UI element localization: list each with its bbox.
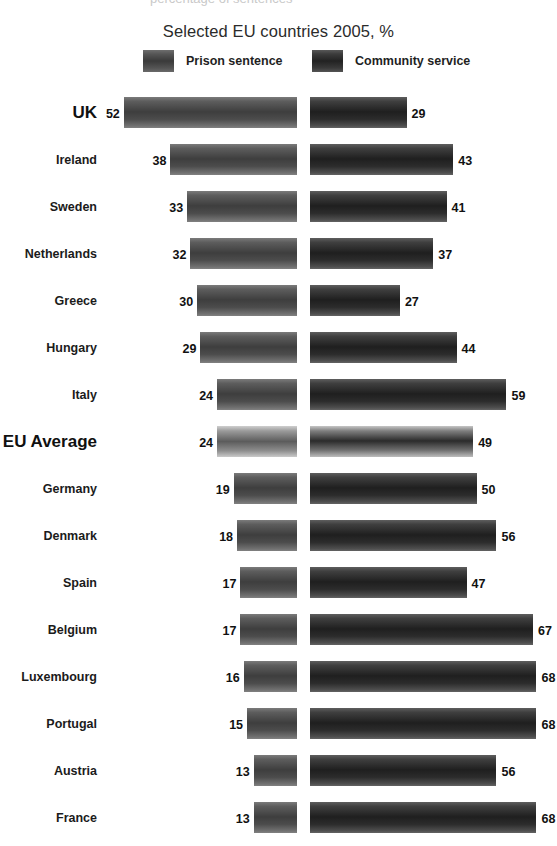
- bar-value-prison-sentence: 17: [194, 625, 236, 638]
- chart-row: EU Average2449: [0, 426, 557, 473]
- bar-community-service: [310, 144, 453, 175]
- chart-row: Sweden3341: [0, 191, 557, 238]
- bar-value-prison-sentence: 19: [188, 484, 230, 497]
- chart-row: Belgium1767: [0, 614, 557, 661]
- row-category-label: Sweden: [0, 200, 97, 214]
- bar-value-prison-sentence: 15: [201, 719, 243, 732]
- row-category-label: Luxembourg: [0, 670, 97, 684]
- row-category-label: Spain: [0, 576, 97, 590]
- bar-prison-sentence: [197, 285, 297, 316]
- bar-value-community-service: 50: [482, 484, 496, 497]
- bar-value-community-service: 29: [412, 108, 426, 121]
- chart-row: Portugal1568: [0, 708, 557, 755]
- chart-row: Greece3027: [0, 285, 557, 332]
- chart-plot-area: UK5229Ireland3843Sweden3341Netherlands32…: [0, 0, 557, 846]
- bar-value-prison-sentence: 38: [124, 155, 166, 168]
- bar-prison-sentence: [247, 708, 297, 739]
- row-category-label: Hungary: [0, 341, 97, 355]
- bar-community-service: [310, 614, 533, 645]
- row-category-label: Netherlands: [0, 247, 97, 261]
- row-category-label: Belgium: [0, 623, 97, 637]
- bar-value-prison-sentence: 24: [171, 437, 213, 450]
- bar-value-community-service: 68: [541, 672, 555, 685]
- chart-row: Netherlands3237: [0, 238, 557, 285]
- chart-row: France1368: [0, 802, 557, 846]
- bar-value-prison-sentence: 17: [194, 578, 236, 591]
- bar-prison-sentence: [190, 238, 297, 269]
- chart-row: Germany1950: [0, 473, 557, 520]
- bar-value-community-service: 27: [405, 296, 419, 309]
- bar-value-community-service: 68: [541, 719, 555, 732]
- bar-prison-sentence: [234, 473, 297, 504]
- bar-value-prison-sentence: 13: [208, 766, 250, 779]
- bar-value-community-service: 37: [438, 249, 452, 262]
- bar-community-service: [310, 191, 447, 222]
- row-category-label: Denmark: [0, 529, 97, 543]
- bar-community-service: [310, 473, 477, 504]
- bar-value-community-service: 43: [458, 155, 472, 168]
- bar-value-prison-sentence: 13: [208, 813, 250, 826]
- row-category-label: Austria: [0, 764, 97, 778]
- bar-community-service: [310, 379, 506, 410]
- row-category-label: Italy: [0, 388, 97, 402]
- chart-row: Italy2459: [0, 379, 557, 426]
- row-category-label: Germany: [0, 482, 97, 496]
- bar-value-community-service: 67: [538, 625, 552, 638]
- bar-prison-sentence: [170, 144, 297, 175]
- bar-value-community-service: 41: [452, 202, 466, 215]
- bar-community-service: [310, 520, 496, 551]
- bar-community-service: [310, 332, 457, 363]
- bar-value-prison-sentence: 16: [198, 672, 240, 685]
- bar-prison-sentence: [254, 755, 297, 786]
- bar-prison-sentence: [217, 426, 297, 457]
- bar-community-service: [310, 661, 536, 692]
- row-category-label: Portugal: [0, 717, 97, 731]
- chart-row: Austria1356: [0, 755, 557, 802]
- bar-community-service: [310, 755, 496, 786]
- bar-prison-sentence: [124, 97, 297, 128]
- bar-prison-sentence: [217, 379, 297, 410]
- bar-value-community-service: 47: [472, 578, 486, 591]
- bar-prison-sentence: [254, 802, 297, 833]
- chart-row: UK5229: [0, 97, 557, 144]
- bar-value-community-service: 56: [501, 766, 515, 779]
- bar-value-prison-sentence: 32: [144, 249, 186, 262]
- bar-community-service: [310, 97, 407, 128]
- chart-row: Hungary2944: [0, 332, 557, 379]
- bar-prison-sentence: [240, 567, 297, 598]
- bar-value-prison-sentence: 18: [191, 531, 233, 544]
- bar-community-service: [310, 238, 433, 269]
- bar-value-prison-sentence: 24: [171, 390, 213, 403]
- row-category-label: Ireland: [0, 153, 97, 167]
- bar-value-prison-sentence: 29: [154, 343, 196, 356]
- bar-value-community-service: 59: [511, 390, 525, 403]
- bar-prison-sentence: [240, 614, 297, 645]
- row-category-label: Greece: [0, 294, 97, 308]
- chart-row: Spain1747: [0, 567, 557, 614]
- bar-value-prison-sentence: 30: [151, 296, 193, 309]
- chart-row: Ireland3843: [0, 144, 557, 191]
- row-category-label: EU Average: [0, 432, 97, 452]
- bar-value-prison-sentence: 33: [141, 202, 183, 215]
- bar-prison-sentence: [187, 191, 297, 222]
- bar-value-community-service: 44: [462, 343, 476, 356]
- bar-community-service: [310, 708, 536, 739]
- bar-prison-sentence: [200, 332, 297, 363]
- bar-value-community-service: 49: [478, 437, 492, 450]
- bar-community-service: [310, 802, 536, 833]
- bar-community-service: [310, 567, 467, 598]
- bar-prison-sentence: [244, 661, 297, 692]
- bar-community-service: [310, 285, 400, 316]
- row-category-label: France: [0, 811, 97, 825]
- chart-row: Denmark1856: [0, 520, 557, 567]
- bar-value-community-service: 56: [501, 531, 515, 544]
- chart-row: Luxembourg1668: [0, 661, 557, 708]
- bar-prison-sentence: [237, 520, 297, 551]
- bar-value-community-service: 68: [541, 813, 555, 826]
- bar-value-prison-sentence: 52: [78, 108, 120, 121]
- bar-community-service: [310, 426, 473, 457]
